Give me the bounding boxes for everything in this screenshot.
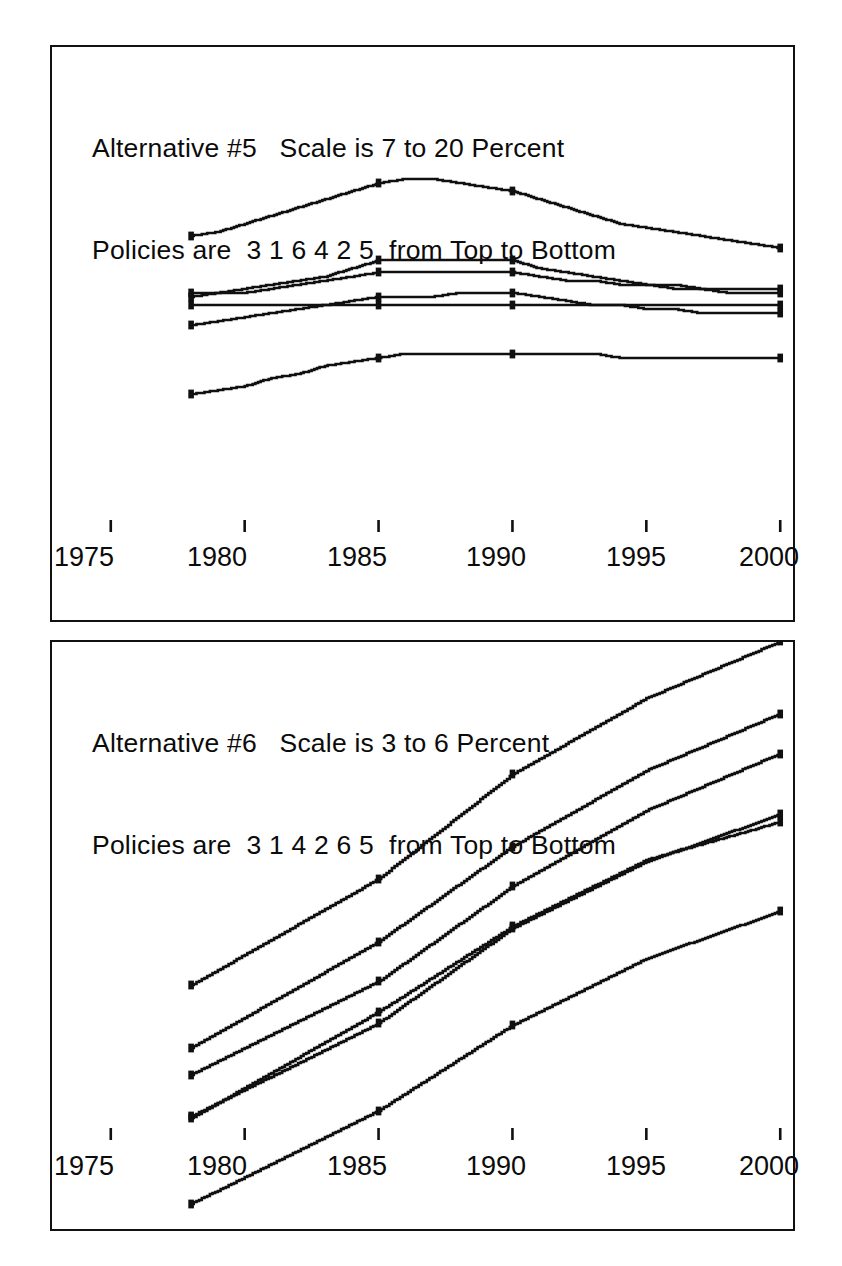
data-point-marker [188, 981, 194, 990]
figure-page: Alternative #5 Scale is 7 to 20 Percent … [0, 0, 842, 1266]
data-point-marker [376, 1019, 382, 1028]
data-point-marker [510, 770, 516, 779]
data-point-marker [777, 907, 783, 916]
x-tick-label-2000: 2000 [739, 1151, 799, 1182]
data-point-marker [376, 1107, 382, 1116]
data-point-marker [188, 1044, 194, 1053]
data-point-marker [188, 1200, 194, 1209]
data-point-marker [376, 268, 382, 277]
data-point-marker [376, 256, 382, 265]
series-line [191, 714, 780, 1048]
series-line [191, 641, 780, 985]
data-point-marker [376, 875, 382, 884]
x-axis-labels-alternative-6: 1975 1980 1985 1990 1995 2000 [50, 1151, 795, 1185]
data-point-marker [376, 179, 382, 188]
data-point-marker [510, 289, 516, 298]
data-point-marker [777, 810, 783, 819]
data-point-marker [510, 256, 516, 265]
chart-panel-alternative-6: Alternative #6 Scale is 3 to 6 Percent P… [50, 640, 795, 1231]
data-point-marker [376, 301, 382, 310]
chart-plot-area-alternative-6 [50, 640, 795, 1231]
data-point-marker [510, 1021, 516, 1030]
data-point-marker [376, 354, 382, 363]
x-tick-label-1975: 1975 [54, 1151, 114, 1182]
data-point-marker [510, 843, 516, 852]
x-tick-label-2000: 2000 [739, 542, 799, 573]
series-line [191, 754, 780, 1075]
data-point-marker [188, 293, 194, 302]
data-point-marker [188, 232, 194, 241]
data-point-marker [510, 268, 516, 277]
x-tick-label-1975: 1975 [54, 542, 114, 573]
data-point-marker [188, 1071, 194, 1080]
x-axis-labels-alternative-5: 1975 1980 1985 1990 1995 2000 [50, 542, 795, 576]
data-point-marker [777, 640, 783, 645]
data-point-marker [376, 1008, 382, 1017]
x-tick-label-1985: 1985 [327, 542, 387, 573]
series-line [191, 293, 780, 325]
data-point-marker [777, 750, 783, 759]
data-point-marker [188, 390, 194, 399]
data-point-marker [188, 321, 194, 330]
chart-panel-alternative-5: Alternative #5 Scale is 7 to 20 Percent … [50, 45, 795, 622]
data-point-marker [777, 309, 783, 318]
data-point-marker [376, 938, 382, 947]
x-tick-label-1995: 1995 [606, 542, 666, 573]
series-line [191, 179, 780, 248]
x-tick-label-1980: 1980 [187, 1151, 247, 1182]
data-point-marker [376, 293, 382, 302]
x-tick-label-1990: 1990 [466, 542, 526, 573]
data-point-marker [188, 1114, 194, 1123]
data-point-marker [777, 710, 783, 719]
data-point-marker [777, 289, 783, 298]
data-point-marker [777, 301, 783, 310]
x-tick-label-1990: 1990 [466, 1151, 526, 1182]
x-tick-label-1980: 1980 [187, 542, 247, 573]
data-point-marker [510, 882, 516, 891]
chart-plot-area-alternative-5 [50, 45, 795, 622]
data-point-marker [510, 301, 516, 310]
x-tick-label-1985: 1985 [327, 1151, 387, 1182]
data-point-marker [188, 301, 194, 310]
data-point-marker [376, 977, 382, 986]
data-point-marker [777, 818, 783, 827]
data-point-marker [777, 244, 783, 253]
data-point-marker [510, 350, 516, 359]
x-tick-label-1995: 1995 [606, 1151, 666, 1182]
data-point-marker [510, 922, 516, 931]
data-point-marker [510, 187, 516, 196]
data-point-marker [777, 354, 783, 363]
series-line [191, 354, 780, 394]
